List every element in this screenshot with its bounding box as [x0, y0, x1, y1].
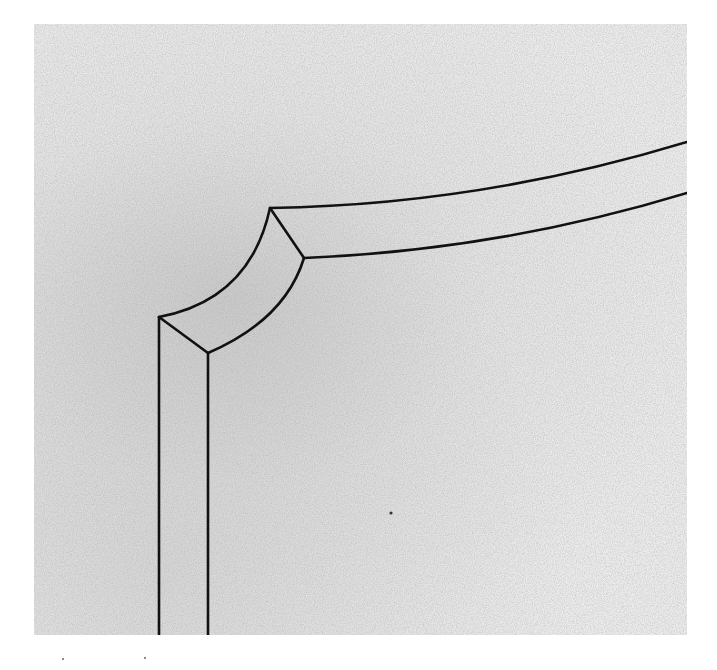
speckle-texture	[34, 24, 687, 635]
moulding-corner-drawing	[0, 0, 717, 670]
stray-mark	[389, 511, 392, 514]
figure-canvas	[0, 0, 717, 670]
tick-mark-left	[62, 658, 64, 660]
tick-mark-right	[144, 657, 146, 659]
